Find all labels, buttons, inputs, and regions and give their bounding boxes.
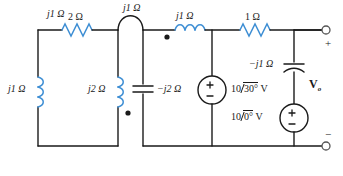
inductor-j1-left-symbol — [38, 77, 43, 107]
polarity-dot-j2-inductor — [125, 110, 130, 115]
wire-hop-arc — [118, 16, 143, 30]
capacitor-negj2-symbol — [133, 86, 153, 92]
resistor-1ohm-symbol — [240, 24, 270, 36]
voltage-source-v2-circle — [280, 104, 308, 132]
inductor-j2-symbol — [118, 77, 123, 107]
label-capacitor-negj2: −j2 Ω — [157, 84, 181, 94]
label-inductor-j2: j2 Ω — [88, 84, 106, 94]
label-output-voltage-vo: Vo — [309, 78, 321, 93]
label-terminal-plus: + — [325, 38, 331, 49]
voltage-source-v1-circle — [198, 76, 226, 104]
label-inductor-j1-left-vertical: j1 Ω — [8, 84, 26, 94]
resistor-2ohm-symbol — [62, 24, 92, 36]
label-mutual-coupling-j1: j1 Ω — [123, 3, 141, 13]
label-inductor-j1-left: j1 Ω — [47, 9, 65, 19]
label-capacitor-negj1: −j1 Ω — [249, 59, 273, 69]
capacitor-negj1-symbol — [284, 64, 304, 72]
output-terminal-minus-node[interactable] — [322, 142, 330, 150]
label-inductor-j1-right: j1 Ω — [176, 11, 194, 21]
label-terminal-minus: − — [325, 129, 331, 140]
label-source-v2: 100° V — [231, 112, 263, 122]
label-resistor-1ohm: 1 Ω — [245, 12, 260, 22]
polarity-dot-j1-right-inductor — [164, 34, 169, 39]
inductor-j1-right-symbol — [175, 25, 205, 30]
output-terminal-plus-node[interactable] — [322, 26, 330, 34]
label-source-v1: 1030° V — [231, 84, 268, 94]
label-resistor-2ohm: 2 Ω — [68, 12, 83, 22]
circuit-diagram-figure: j1 Ω 2 Ω j1 Ω j1 Ω 1 Ω j1 Ω j2 Ω −j2 Ω −… — [0, 0, 343, 176]
